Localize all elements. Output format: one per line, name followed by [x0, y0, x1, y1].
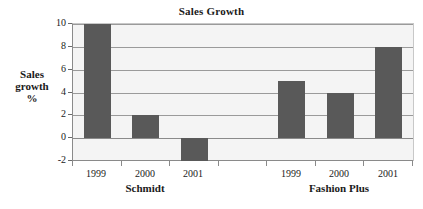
y-tick-mark-6 — [68, 69, 72, 70]
x-tick-mark — [218, 160, 219, 166]
gridline-10 — [73, 24, 413, 25]
x-tick-label-2000-5: 2000 — [314, 168, 364, 179]
y-tick-label-0: 0 — [40, 132, 66, 142]
x-tick-label-1999-0: 1999 — [71, 168, 121, 179]
y-tick-label-4: 4 — [40, 87, 66, 97]
plot-area — [72, 23, 414, 161]
x-tick-label-1999-4: 1999 — [266, 168, 316, 179]
y-tick-mark-10 — [68, 23, 72, 24]
gridline-6 — [73, 70, 413, 71]
bar — [132, 115, 159, 138]
y-tick-label--2: -2 — [40, 155, 66, 165]
x-tick-mark — [363, 160, 364, 166]
sales-growth-chart: Sales Growth Sales growth % 1086420-2199… — [0, 0, 423, 209]
group-label-schmidt: Schmidt — [85, 182, 205, 194]
y-tick-mark-0 — [68, 137, 72, 138]
gridline--2 — [73, 160, 413, 161]
x-tick-mark — [266, 160, 267, 166]
gridline-2 — [73, 115, 413, 116]
x-tick-label-2000-1: 2000 — [120, 168, 170, 179]
chart-title: Sales Growth — [0, 5, 423, 17]
bar — [375, 47, 402, 138]
x-tick-mark — [315, 160, 316, 166]
bar — [84, 24, 111, 138]
x-tick-label-2001-2: 2001 — [168, 168, 218, 179]
y-tick-mark-4 — [68, 92, 72, 93]
gridline-8 — [73, 47, 413, 48]
x-tick-mark — [169, 160, 170, 166]
x-tick-mark — [72, 160, 73, 166]
y-tick-mark-8 — [68, 46, 72, 47]
y-tick-label-10: 10 — [40, 18, 66, 28]
y-tick-mark-2 — [68, 114, 72, 115]
bar — [278, 81, 305, 138]
x-tick-mark — [121, 160, 122, 166]
group-label-fashion-plus: Fashion Plus — [279, 182, 399, 194]
bar — [327, 93, 354, 139]
gridline-0 — [73, 138, 413, 139]
x-tick-label-2001-6: 2001 — [363, 168, 413, 179]
bar — [181, 138, 208, 161]
y-tick-label-8: 8 — [40, 41, 66, 51]
y-tick-label-6: 6 — [40, 64, 66, 74]
x-tick-mark — [412, 160, 413, 166]
y-tick-label-2: 2 — [40, 109, 66, 119]
gridline-4 — [73, 93, 413, 94]
